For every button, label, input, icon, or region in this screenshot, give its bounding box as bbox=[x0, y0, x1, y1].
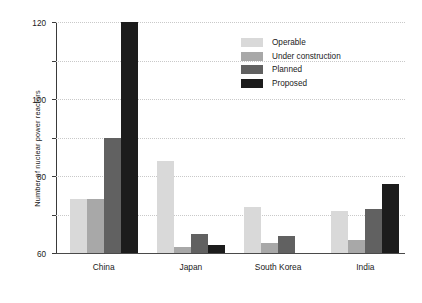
chart-legend: OperableUnder constructionPlannedPropose… bbox=[241, 36, 341, 90]
x-axis-tick-label: India bbox=[356, 262, 374, 272]
y-axis-tick: 100 bbox=[52, 61, 56, 62]
bar bbox=[70, 199, 87, 253]
bar-chart: Number of nuclear power reactors 0204060… bbox=[0, 0, 422, 303]
legend-label: Operable bbox=[272, 38, 306, 47]
y-axis-tick-label: 80 bbox=[37, 173, 46, 182]
bar bbox=[244, 207, 261, 253]
x-axis-tick-label: Japan bbox=[179, 262, 202, 272]
legend-item: Operable bbox=[241, 36, 341, 50]
legend-swatch bbox=[241, 38, 263, 47]
bar bbox=[174, 247, 191, 253]
legend-label: Under construction bbox=[272, 52, 341, 61]
y-axis-tick: 0 bbox=[52, 253, 56, 254]
bar bbox=[121, 22, 138, 253]
y-axis-title: Number of nuclear power reactors bbox=[33, 54, 42, 244]
y-axis-tick: 80 bbox=[52, 99, 56, 100]
bar bbox=[348, 240, 365, 253]
legend-label: Planned bbox=[272, 65, 302, 74]
y-axis-tick-label: 120 bbox=[32, 19, 46, 28]
y-axis-tick: 60 bbox=[52, 138, 56, 139]
legend-item: Under construction bbox=[241, 50, 341, 64]
legend-item: Proposed bbox=[241, 77, 341, 91]
bar bbox=[365, 209, 382, 253]
bar-cluster: India bbox=[331, 22, 399, 253]
legend-swatch bbox=[241, 52, 263, 61]
bar bbox=[157, 161, 174, 253]
plot-inner: 020406080100120ChinaJapanSouth KoreaIndi… bbox=[56, 22, 405, 253]
legend-label: Proposed bbox=[272, 79, 307, 88]
y-axis-tick-label: 60 bbox=[37, 250, 46, 259]
y-axis-tick: 40 bbox=[52, 176, 56, 177]
y-axis-tick-label: 100 bbox=[32, 96, 46, 105]
y-axis-tick: 20 bbox=[52, 215, 56, 216]
bar bbox=[382, 184, 399, 253]
bar bbox=[191, 234, 208, 253]
y-axis-tick: 120 bbox=[52, 22, 56, 23]
bar bbox=[208, 245, 225, 253]
bar bbox=[87, 199, 104, 253]
bar bbox=[104, 138, 121, 254]
legend-swatch bbox=[241, 65, 263, 74]
plot-area: 020406080100120ChinaJapanSouth KoreaIndi… bbox=[56, 22, 405, 253]
bar bbox=[331, 211, 348, 253]
bar-cluster: China bbox=[70, 22, 138, 253]
bar-cluster: Japan bbox=[157, 22, 225, 253]
legend-swatch bbox=[241, 79, 263, 88]
x-axis-baseline bbox=[56, 253, 405, 254]
bar bbox=[278, 236, 295, 253]
bar bbox=[261, 243, 278, 253]
x-axis-tick-label: China bbox=[93, 262, 115, 272]
x-axis-tick-label: South Korea bbox=[255, 262, 302, 272]
legend-item: Planned bbox=[241, 63, 341, 77]
